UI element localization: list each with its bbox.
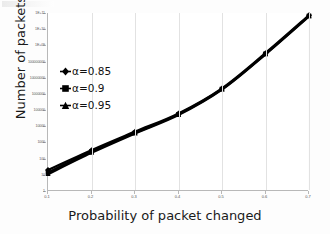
x-tick-label: 0.3 (121, 194, 147, 199)
y-tick-label: 100000000 (5, 60, 45, 64)
x-tick-label: 0.7 (295, 194, 321, 199)
y-tick-label: 100 (5, 157, 45, 161)
legend-item-alpha-095: α=0.95 (60, 100, 111, 111)
x-gridline (309, 13, 310, 190)
x-tick-label: 0.1 (34, 194, 60, 199)
x-tick-label: 0.2 (78, 194, 104, 199)
y-tick-label: 10000 (5, 124, 45, 128)
x-gridline (179, 13, 180, 190)
triangle-marker-icon (60, 100, 71, 111)
y-tick-label: 1 (5, 189, 45, 193)
x-tick-label: 0.6 (252, 194, 278, 199)
legend-label: α=0.85 (72, 66, 111, 77)
y-tick-label: 1E+11 (5, 11, 45, 15)
y-tick-label: 10 (5, 173, 45, 177)
y-tick-label: 1000 (5, 140, 45, 144)
chart-legend: α=0.85 α=0.9 α=0.95 (60, 66, 111, 111)
x-gridline (222, 13, 223, 190)
x-gridline (266, 13, 267, 190)
legend-item-alpha-085: α=0.85 (60, 66, 111, 77)
legend-label: α=0.9 (72, 83, 104, 94)
legend-label: α=0.95 (72, 100, 111, 111)
legend-item-alpha-09: α=0.9 (60, 83, 111, 94)
scan-artifact (2, 1, 54, 7)
x-tick-label: 0.4 (165, 194, 191, 199)
x-axis-title: Probability of packet changed (0, 208, 330, 223)
diamond-marker-icon (60, 66, 71, 77)
chart-figure: Number of packets α=0.85 α=0.9 (0, 0, 330, 234)
y-tick-label: 1E+09 (5, 43, 45, 47)
y-tick-label: 1000000 (5, 92, 45, 96)
square-marker-icon (60, 83, 71, 94)
y-axis-title: Number of packets (13, 0, 28, 138)
x-gridline (135, 13, 136, 190)
y-tick-label: 1E+10 (5, 27, 45, 31)
y-tick-label: 100000 (5, 108, 45, 112)
x-tick-label: 0.5 (208, 194, 234, 199)
y-tick-label: 10000000 (5, 76, 45, 80)
